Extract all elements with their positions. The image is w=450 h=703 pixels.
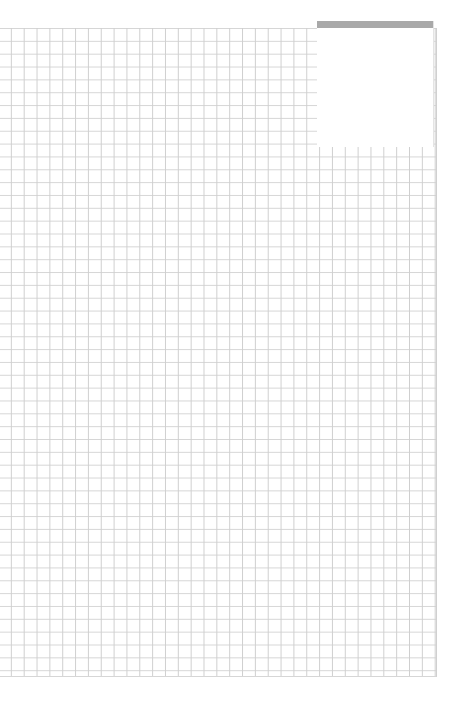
label-box xyxy=(317,21,434,147)
label-header-bar xyxy=(317,21,433,28)
